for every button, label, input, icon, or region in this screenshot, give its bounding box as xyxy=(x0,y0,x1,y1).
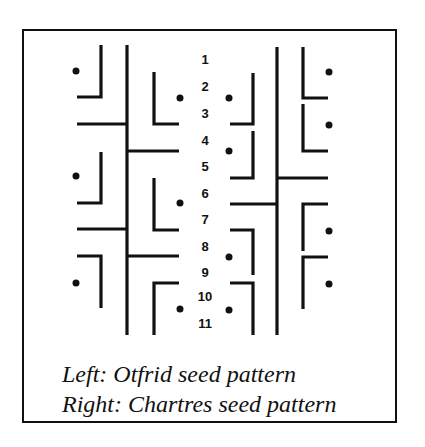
row-number: 5 xyxy=(201,159,208,174)
otfrid-seed-pattern xyxy=(77,45,179,335)
row-number: 1 xyxy=(201,52,208,67)
row-number: 2 xyxy=(201,79,208,94)
row-number: 6 xyxy=(201,186,208,201)
chartres-seed-dots xyxy=(226,69,333,314)
caption-right: Right: Chartres seed pattern xyxy=(61,391,336,417)
row-number: 3 xyxy=(201,106,208,121)
row-number: 4 xyxy=(201,133,209,148)
row-number: 9 xyxy=(201,265,208,280)
row-number: 10 xyxy=(198,289,212,304)
seed-pattern-diagram: 1 2 3 4 5 6 7 8 9 10 11 Left: Otfrid see… xyxy=(0,0,425,447)
row-numbers: 1 2 3 4 5 6 7 8 9 10 11 xyxy=(198,52,212,331)
row-number: 7 xyxy=(201,212,208,227)
chartres-seed-pattern xyxy=(230,47,328,335)
row-number: 8 xyxy=(201,239,208,254)
caption-left: Left: Otfrid seed pattern xyxy=(61,361,296,387)
row-number: 11 xyxy=(198,316,212,331)
